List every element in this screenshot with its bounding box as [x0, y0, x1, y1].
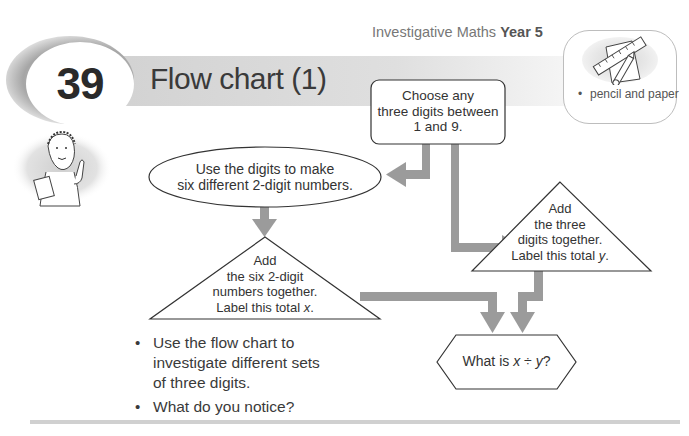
variable-x: x: [513, 353, 520, 369]
triangle-y-line: digits together.: [490, 232, 630, 248]
triangle-y-line: Label this total y.: [490, 248, 630, 264]
divide-symbol: ÷: [524, 353, 532, 369]
triangle-y-text: Add the three digits together. Label thi…: [490, 201, 630, 263]
start-box-line: three digits between: [371, 104, 505, 120]
triangle-x-line: Label this total x.: [175, 300, 355, 316]
start-box-line: 1 and 9.: [371, 119, 505, 135]
ellipse-line: six different 2-digit numbers.: [149, 177, 381, 193]
triangle-y-line: the three: [490, 217, 630, 233]
triangle-x-line: the six 2-digit: [175, 269, 355, 285]
triangle-y-line: Add: [490, 201, 630, 217]
instruction-item: Use the flow chart to investigate differ…: [133, 333, 320, 393]
bottom-divider: [30, 420, 680, 424]
instruction-item: What do you notice?: [133, 397, 320, 417]
triangle-x-line: Add: [175, 253, 355, 269]
ellipse-line: Use the digits to make: [149, 161, 381, 177]
instructions-list: Use the flow chart to investigate differ…: [133, 333, 320, 421]
start-box-line: Choose any: [371, 88, 505, 104]
start-box-text: Choose any three digits between 1 and 9.: [371, 88, 505, 135]
triangle-x-line: numbers together.: [175, 284, 355, 300]
ellipse-text: Use the digits to make six different 2-d…: [149, 161, 381, 193]
triangle-x-text: Add the six 2-digit numbers together. La…: [175, 253, 355, 315]
variable-y: y: [536, 353, 543, 369]
end-hexagon-text: What is x ÷ y?: [456, 354, 557, 370]
